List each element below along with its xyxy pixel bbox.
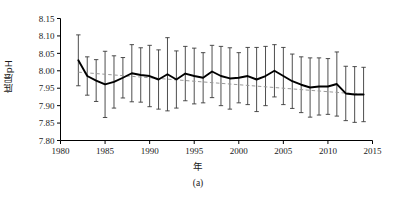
figure-panel: 7.807.857.907.958.008.058.108.1519801985… [0,0,396,204]
y-axis-tick-label: 7.85 [39,118,55,128]
x-axis-tick-label: 1990 [141,146,160,156]
y-axis-tick-label: 8.05 [39,49,55,59]
chart-canvas: 7.807.857.907.958.008.058.108.1519801985… [0,0,396,204]
y-axis-label-text: 底层pH [4,60,14,93]
figure-caption: (a) [0,178,396,188]
axis-frame [61,19,373,141]
y-axis-label: 底层pH [1,46,17,108]
x-axis-tick-label: 2010 [319,146,338,156]
x-axis-tick-label: 2005 [274,146,293,156]
x-axis-tick-label: 1980 [52,146,71,156]
y-axis-tick-label: 8.00 [39,66,55,76]
x-axis-tick-label: 1985 [96,146,115,156]
y-axis-tick-label: 7.80 [39,136,55,146]
x-axis-tick-label: 1995 [185,146,204,156]
x-axis-label: 年 [0,159,396,173]
y-axis-tick-label: 7.95 [39,83,55,93]
x-axis-tick-label: 2000 [230,146,249,156]
x-axis-tick-label: 2015 [364,146,383,156]
y-axis-tick-label: 8.15 [39,14,55,24]
y-axis-tick-label: 7.90 [39,101,55,111]
y-axis-tick-label: 8.10 [39,31,55,41]
